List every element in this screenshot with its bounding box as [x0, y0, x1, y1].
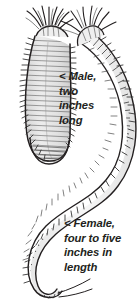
female-annotation-label: < Female, four to five inches in length	[64, 216, 121, 275]
female-worm-tail-cerci	[58, 279, 92, 297]
male-annotation-label: < Male, two inches long	[59, 69, 96, 128]
male-worm-head	[26, 6, 73, 37]
male-worm-head-tentacles	[27, 6, 73, 28]
